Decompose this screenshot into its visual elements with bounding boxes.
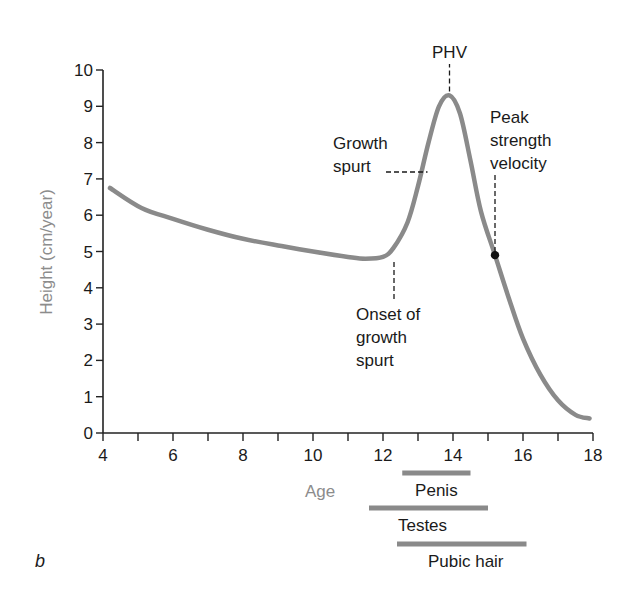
y-tick-label: 2 <box>84 351 93 370</box>
y-tick-label: 1 <box>84 388 93 407</box>
x-tick-label: 12 <box>374 446 393 465</box>
y-tick-label: 8 <box>84 134 93 153</box>
panel-label: b <box>35 551 45 571</box>
peak-strength-label: strength <box>490 131 551 150</box>
y-tick-label: 10 <box>74 61 93 80</box>
x-tick-label: 16 <box>514 446 533 465</box>
y-tick-label: 4 <box>84 279 93 298</box>
peak-strength-label: velocity <box>490 154 547 173</box>
y-tick-label: 6 <box>84 206 93 225</box>
phv-label: PHV <box>432 43 468 62</box>
onset-label: spurt <box>356 351 394 370</box>
maturation-bar-label: Penis <box>415 481 458 500</box>
y-axis-title: Height (cm/year) <box>37 189 56 315</box>
y-tick-label: 7 <box>84 170 93 189</box>
y-axis: 012345678910 <box>74 61 103 443</box>
maturation-bar-label: Testes <box>398 516 447 535</box>
peak-strength-label: Peak <box>490 108 529 127</box>
y-tick-label: 5 <box>84 243 93 262</box>
x-tick-label: 10 <box>304 446 323 465</box>
y-tick-label: 0 <box>84 424 93 443</box>
peak-strength-dot <box>491 251 499 259</box>
x-tick-label: 18 <box>584 446 603 465</box>
y-tick-label: 3 <box>84 315 93 334</box>
x-axis: 4681012141618 <box>98 433 602 465</box>
x-tick-label: 4 <box>98 446 107 465</box>
x-tick-label: 8 <box>238 446 247 465</box>
maturation-bars: PenisTestesPubic hair <box>369 473 527 571</box>
growth-spurt-label: Growth <box>333 134 388 153</box>
x-tick-label: 14 <box>444 446 463 465</box>
maturation-bar-label: Pubic hair <box>428 552 504 571</box>
x-tick-label: 6 <box>168 446 177 465</box>
y-tick-label: 9 <box>84 97 93 116</box>
x-axis-title: Age <box>305 482 335 501</box>
growth-spurt-label: spurt <box>333 157 371 176</box>
height-velocity-chart: 012345678910 4681012141618 PHVGrowthspur… <box>0 0 630 593</box>
onset-label: growth <box>356 328 407 347</box>
onset-label: Onset of <box>356 305 421 324</box>
